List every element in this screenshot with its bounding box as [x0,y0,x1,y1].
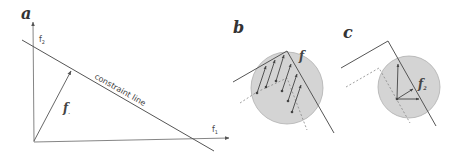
f1-axis-label: f1 [212,125,218,135]
panel-c: c f2 [341,23,440,126]
diagram-canvas: a f2 f1 constraint line f. b [0,0,463,154]
panel-b-label: b [233,18,244,37]
panel-b: b f [233,18,334,133]
origin-point-c [396,98,399,101]
f2-axis [33,22,34,142]
panel-c-label: c [343,23,353,42]
f1-axis [34,138,229,142]
panel-a: a f2 f1 constraint line f. [21,4,229,151]
constraint-line [22,40,214,151]
panel-a-label: a [21,4,31,23]
constraint-line-label: constraint line [93,72,147,108]
vector-f-label: f. [62,101,70,115]
f2-axis-label: f2 [39,35,45,45]
region-circle-c [378,56,440,118]
region-circle-b [251,52,323,124]
